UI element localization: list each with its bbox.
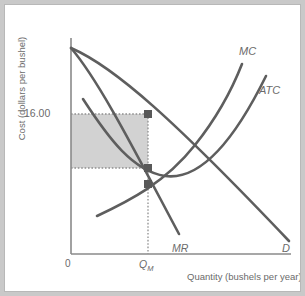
atc-point-marker [144, 164, 152, 172]
price-point-marker [144, 110, 152, 118]
economics-chart-svg [5, 5, 301, 292]
mr-mc-point-marker [144, 180, 152, 188]
economic-profit-rectangle [71, 114, 148, 168]
figure-frame: Cost (dollars per bushel) 16.00 Quantity… [4, 4, 301, 292]
